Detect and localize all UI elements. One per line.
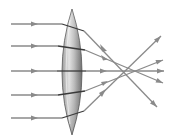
arrowhead-icon	[157, 69, 164, 74]
arrowhead-icon	[100, 69, 107, 74]
arrowhead-icon	[31, 22, 38, 27]
outgoing-ray-1	[84, 31, 157, 107]
convex-lens	[57, 9, 86, 135]
arrowhead-icon	[101, 81, 108, 86]
arrowhead-icon	[31, 44, 38, 49]
incoming-rays	[11, 22, 62, 121]
outgoing-rays	[84, 31, 164, 111]
arrowhead-icon	[100, 44, 107, 52]
arrowhead-icon	[156, 60, 164, 65]
arrowhead-icon	[31, 93, 38, 98]
arrowhead-icon	[31, 116, 38, 121]
arrowhead-icon	[31, 69, 38, 74]
converging-lens-diagram	[0, 0, 173, 140]
lens-shading	[62, 9, 82, 135]
arrowhead-icon	[156, 78, 164, 83]
outgoing-ray-4	[85, 60, 163, 91]
outgoing-ray-2	[85, 50, 163, 83]
